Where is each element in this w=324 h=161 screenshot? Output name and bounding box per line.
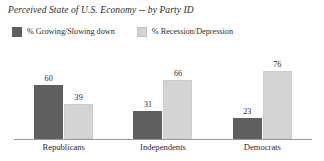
x-axis-baseline [14, 139, 312, 140]
bar-independents-recession-depression: 66 [163, 42, 192, 139]
category-label-democrats: Democrats [213, 142, 312, 152]
bar-rect [163, 80, 192, 139]
legend-swatch-growing-slowing-down [12, 27, 22, 37]
bar-independents-growing-slowing-down: 31 [133, 42, 162, 139]
bar-democrats-growing-slowing-down: 23 [233, 42, 262, 139]
bar-value-label: 76 [263, 61, 292, 69]
bar-chart-figure: Perceived State of U.S. Economy -- by Pa… [0, 0, 324, 161]
bar-groups: 60 39 31 66 23 [14, 42, 312, 139]
category-axis-labels: Republicans Independents Democrats [14, 142, 312, 152]
bar-rect [263, 71, 292, 139]
plot-area: 60 39 31 66 23 [0, 42, 324, 140]
legend-item-growing-slowing-down: % Growing/Slowing down [12, 27, 115, 37]
bar-group-independents: 31 66 [113, 42, 212, 139]
chart-title: Perceived State of U.S. Economy -- by Pa… [8, 5, 194, 15]
bar-value-label: 60 [34, 75, 63, 83]
bar-rect [34, 85, 63, 139]
chart-legend: % Growing/Slowing down % Recession/Depre… [12, 26, 233, 38]
bar-rect [133, 111, 162, 139]
legend-item-recession-depression: % Recession/Depression [137, 27, 233, 37]
bar-value-label: 66 [163, 70, 192, 78]
bar-group-republicans: 60 39 [14, 42, 113, 139]
legend-swatch-recession-depression [137, 27, 147, 37]
bar-rect [64, 104, 93, 139]
bar-democrats-recession-depression: 76 [263, 42, 292, 139]
bar-value-label: 23 [233, 108, 262, 116]
bar-value-label: 39 [64, 94, 93, 102]
bar-republicans-recession-depression: 39 [64, 42, 93, 139]
bar-value-label: 31 [133, 101, 162, 109]
legend-label-recession-depression: % Recession/Depression [152, 28, 233, 36]
bar-rect [233, 118, 262, 139]
legend-label-growing-slowing-down: % Growing/Slowing down [27, 28, 115, 36]
category-label-republicans: Republicans [14, 142, 113, 152]
bar-group-democrats: 23 76 [213, 42, 312, 139]
bar-republicans-growing-slowing-down: 60 [34, 42, 63, 139]
category-label-independents: Independents [113, 142, 212, 152]
